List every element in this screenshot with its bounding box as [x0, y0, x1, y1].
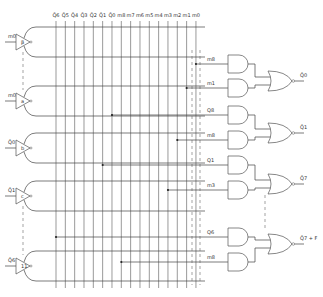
column-label: m8: [117, 12, 125, 18]
and-gate: m8: [120, 253, 248, 271]
column-label: Q̄6: [52, 12, 59, 18]
column-label: Q̄2: [90, 12, 97, 18]
and-input-label: Q6: [207, 229, 214, 235]
buffer-input-label: Q̄1: [8, 187, 15, 193]
buffer-symbol: β: [21, 39, 24, 46]
and-input-label: Q1: [207, 157, 214, 163]
or-output-label: Q̄7: [300, 175, 307, 181]
column-label: Q̄1: [99, 12, 106, 18]
column-labels: Q̄6Q̄5Q̄4Q̄3Q̄2Q̄1Q̄0m8m7m6m5m4m3m2m1m0: [52, 12, 200, 18]
buffer-gate: Q̄1c: [5, 181, 205, 211]
and-gate: Q1: [102, 156, 248, 174]
column-label: m7: [127, 12, 135, 18]
and-input-label: m3: [207, 182, 215, 188]
buffer-input-label: Q̄0: [8, 139, 15, 145]
and-input-label: m8: [207, 254, 215, 260]
or-gate-icon: [268, 234, 292, 254]
and-gate-icon: [228, 156, 248, 174]
column-label: Q̄5: [62, 12, 69, 18]
and-gate-icon: [228, 79, 248, 97]
and-gate-icon: [228, 228, 248, 246]
buffer-symbol: a: [21, 98, 24, 104]
column-label: m3: [164, 12, 172, 18]
and-input-label: m1: [207, 80, 215, 86]
or-output-label: Q̄7 + F: [300, 235, 317, 241]
buffer-symbol: b: [21, 145, 24, 151]
and-gate: m1: [186, 79, 248, 97]
logic-circuit-diagram: Q̄6Q̄5Q̄4Q̄3Q̄2Q̄1Q̄0m8m7m6m5m4m3m2m1m0 …: [0, 0, 323, 297]
column-label: Q̄3: [80, 12, 87, 18]
column-label: m6: [136, 12, 144, 18]
buffer-gate: m0a: [5, 86, 205, 116]
column-label: m2: [173, 12, 181, 18]
and-gate-icon: [228, 181, 248, 199]
and-gate: m3: [167, 181, 248, 199]
column-label: m1: [183, 12, 191, 18]
and-gate-icon: [228, 55, 248, 73]
and-gate-icon: [228, 131, 248, 149]
and-input-label: Q8: [207, 107, 214, 113]
buffer-symbol: c: [21, 193, 24, 199]
and-gate: m8: [176, 131, 248, 149]
buffer-gate: m0β: [5, 27, 205, 57]
and-input-label: m8: [207, 132, 215, 138]
or-gate: Q̄0: [248, 64, 307, 91]
or-gate: Q̄7: [248, 165, 307, 194]
buffer-gate: Q̄0b: [5, 133, 205, 163]
or-output-label: Q̄1: [300, 124, 307, 130]
column-label: Q̄4: [71, 12, 78, 18]
column-label: m4: [155, 12, 163, 18]
and-gate-icon: [228, 106, 248, 124]
or-gate-icon: [268, 123, 292, 143]
input-buffers: m0βm0aQ̄0bQ̄1cQ̄611: [5, 27, 205, 281]
column-label: Q̄0: [108, 12, 115, 18]
buffer-input-label: m0: [8, 92, 16, 98]
or-output-label: Q̄0: [300, 72, 307, 78]
and-gate: Q8: [111, 106, 248, 124]
column-label: m5: [145, 12, 153, 18]
buffer-gate: Q̄611: [5, 251, 205, 281]
and-gate: m8: [195, 55, 248, 73]
buffer-input-label: m0: [8, 33, 16, 39]
column-label: m0: [192, 12, 200, 18]
or-gate-icon: [268, 71, 292, 91]
or-gates: Q̄0Q̄1Q̄7Q̄7 + F: [248, 64, 317, 262]
or-gate: Q̄7 + F: [248, 234, 317, 262]
vertical-bus-lines: [56, 21, 196, 288]
and-input-label: m8: [207, 56, 215, 62]
buffer-input-label: Q̄6: [8, 257, 15, 263]
buffer-symbol: 11: [21, 263, 27, 269]
or-gate-icon: [268, 174, 292, 194]
and-gate-icon: [228, 253, 248, 271]
or-gate: Q̄1: [248, 115, 307, 143]
